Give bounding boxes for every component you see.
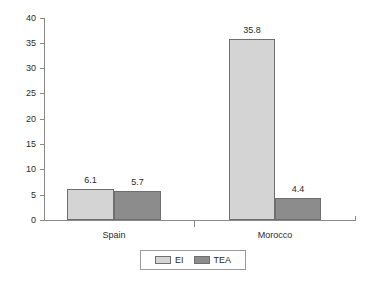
bar-chart: 40 35 30 25 20 15 10 5 0 6.1 5.7 35.8 4.… bbox=[0, 0, 368, 285]
bar-spain-tea bbox=[114, 191, 161, 220]
legend-label-ei: EI bbox=[175, 256, 184, 265]
chart-legend: EI TEA bbox=[140, 250, 246, 270]
bar-value-label-spain-tea: 5.7 bbox=[114, 178, 161, 187]
legend-item-tea[interactable]: TEA bbox=[194, 256, 232, 265]
y-axis-label-40: 40 bbox=[6, 14, 36, 23]
legend-swatch-ei-icon bbox=[155, 256, 171, 264]
legend-swatch-tea-icon bbox=[194, 256, 210, 264]
x-axis-category-label-morocco: Morocco bbox=[230, 230, 320, 240]
y-axis-label-0: 0 bbox=[6, 216, 36, 225]
bar-value-label-spain-ei: 6.1 bbox=[67, 176, 114, 185]
y-axis-label-15: 15 bbox=[6, 140, 36, 149]
bar-morocco-tea bbox=[275, 198, 321, 220]
y-axis-label-25: 25 bbox=[6, 89, 36, 98]
y-axis-label-35: 35 bbox=[6, 39, 36, 48]
y-axis-tick-30 bbox=[40, 68, 45, 69]
y-axis-tick-40 bbox=[40, 18, 45, 19]
y-axis-label-10: 10 bbox=[6, 165, 36, 174]
y-axis-tick-5 bbox=[40, 195, 45, 196]
y-axis-tick-25 bbox=[40, 93, 45, 94]
y-axis-label-20: 20 bbox=[6, 115, 36, 124]
y-axis-tick-20 bbox=[40, 119, 45, 120]
bar-value-label-morocco-ei: 35.8 bbox=[229, 26, 275, 35]
x-axis-end-tick bbox=[355, 216, 356, 221]
y-axis-tick-15 bbox=[40, 144, 45, 145]
x-axis-line bbox=[44, 220, 356, 221]
y-axis-tick-35 bbox=[40, 43, 45, 44]
y-axis-tick-10 bbox=[40, 169, 45, 170]
x-axis-category-label-spain: Spain bbox=[69, 230, 159, 240]
legend-item-ei[interactable]: EI bbox=[155, 256, 184, 265]
x-axis-category-separator-tick bbox=[194, 221, 195, 227]
y-axis-label-5: 5 bbox=[6, 191, 36, 200]
bar-value-label-morocco-tea: 4.4 bbox=[275, 185, 321, 194]
bar-morocco-ei bbox=[229, 39, 275, 220]
legend-label-tea: TEA bbox=[214, 256, 232, 265]
y-axis-label-30: 30 bbox=[6, 64, 36, 73]
bar-spain-ei bbox=[67, 189, 114, 220]
